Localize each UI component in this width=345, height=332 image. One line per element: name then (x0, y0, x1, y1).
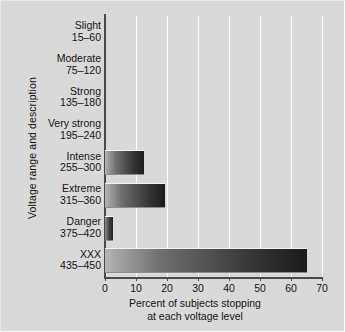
gridline (229, 16, 230, 277)
gridline (291, 16, 292, 277)
x-axis-tick (198, 277, 199, 281)
gridline (198, 16, 199, 277)
x-axis-tick-label: 40 (214, 282, 244, 294)
category-range: 135–180 (28, 97, 101, 109)
category-range: 195–240 (28, 130, 101, 142)
x-axis-title-line-1: Percent of subjects stopping (60, 297, 330, 310)
category-range: 255–300 (28, 162, 101, 174)
x-axis-tick-label: 0 (90, 282, 120, 294)
bar (105, 183, 165, 208)
x-axis-tick-label: 70 (307, 282, 337, 294)
category-label: XXX435–450 (28, 249, 101, 272)
category-label: Extreme315–360 (28, 183, 101, 206)
bar-chart-figure: Voltage range and description Slight15–6… (0, 0, 345, 332)
category-label: Danger375–420 (28, 216, 101, 239)
category-name: Moderate (28, 53, 101, 65)
x-axis-tick (322, 277, 323, 281)
bar (105, 216, 113, 241)
bar (105, 248, 307, 273)
plot-area (105, 16, 322, 277)
x-axis-tick (136, 277, 137, 281)
x-axis-tick (260, 277, 261, 281)
gridline (322, 16, 323, 277)
x-axis-tick (229, 277, 230, 281)
category-label: Intense255–300 (28, 151, 101, 174)
category-label: Moderate75–120 (28, 53, 101, 76)
category-range: 435–450 (28, 260, 101, 272)
category-range: 315–360 (28, 195, 101, 207)
y-axis-category-labels: Slight15–60Moderate75–120Strong135–180Ve… (28, 16, 101, 277)
category-range: 15–60 (28, 32, 101, 44)
x-axis-tick-label: 20 (152, 282, 182, 294)
category-range: 75–120 (28, 65, 101, 77)
gridline (260, 16, 261, 277)
category-label: Very strong195–240 (28, 118, 101, 141)
bar (105, 150, 144, 175)
x-axis-tick-label: 10 (121, 282, 151, 294)
x-axis-tick-label: 50 (245, 282, 275, 294)
category-range: 375–420 (28, 228, 101, 240)
gridline (167, 16, 168, 277)
category-name: Danger (28, 216, 101, 228)
x-axis-tick (167, 277, 168, 281)
x-axis-tick-label: 60 (276, 282, 306, 294)
x-axis-tick (291, 277, 292, 281)
x-axis-title: Percent of subjects stopping at each vol… (60, 297, 330, 322)
x-axis-tick (105, 277, 106, 281)
category-label: Slight15–60 (28, 20, 101, 43)
x-axis-tick-label: 30 (183, 282, 213, 294)
category-label: Strong135–180 (28, 86, 101, 109)
gridline (136, 16, 137, 277)
x-axis-title-line-2: at each voltage level (60, 310, 330, 323)
